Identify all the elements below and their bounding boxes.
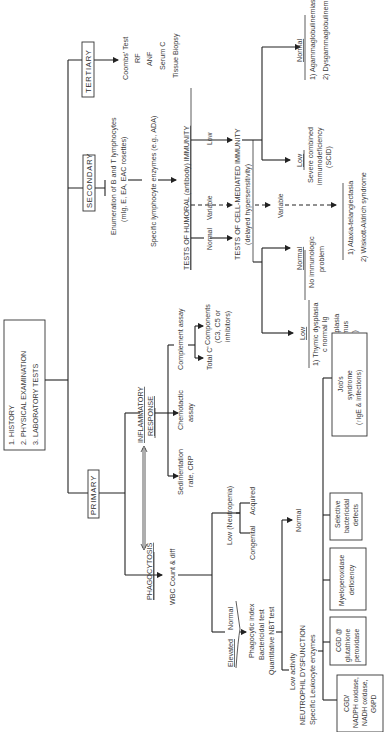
scid-line-2: immunodeficiency [315,127,324,185]
cgd-line-3: NADH oxidase, [361,679,368,726]
cmi-variable-label: Variable [277,193,284,218]
humoral-result-normal: Normal [206,228,213,250]
cgd-glut-line-2: glutathione [344,629,352,662]
selective-line-1: Selective [334,500,341,528]
enumeration-text: Enumeration of B and T lymphocytes [109,117,118,235]
tertiary-test-anf: ANF [145,51,154,66]
cgd-glut-line-1: CGD @ [335,628,342,652]
start-item-physical-exam: 2. PHYSICAL EXAMINATION [19,351,28,445]
no-problem-line-1: No immunologic [307,236,316,288]
neutrophil-dysfunction-label: NEUTROPHIL DYSFUNCTION [298,625,307,725]
tertiary-label: TERTIARY [84,49,93,93]
leukocyte-enzymes-label: Specific Leukocyte enzymes [308,634,317,725]
cgd-glut-line-3: peroxidase [353,629,361,662]
complement-assay-label: Complement assay [176,308,185,370]
cmi-normal-label: Normal [295,246,304,270]
thymic-line-2: c normal Ig [320,316,329,352]
enumeration-subtext: (mIg, E, EA, EAC rosettes) [119,137,128,222]
jobs-line-2: syndrome [346,370,354,400]
scid-line-3: (SCID) [324,146,333,168]
agamma-line-2: 2) Dysgammaglobulinemias [321,0,330,80]
elevated-normal-brace [236,601,240,668]
secondary-label: SECONDARY [85,153,94,208]
myelo-line-1: Myeloperoxidase [338,554,346,606]
tertiary-test-coombs: Coombs' Test [121,37,130,80]
cmi-tests-subtitle: (delayed hypersensitivity) [243,164,252,245]
immunodeficiency-workup-flowchart: 1. HISTORY 2. PHYSICAL EXAMINATION 3. LA… [0,0,385,732]
humoral-tests-title: TESTS OF HUMORAL (antibody) IMMUNITY [182,125,191,270]
sed-rate-line-2: rate, CRP [186,455,195,487]
components-line-2: (C3, C5 or [213,309,222,343]
inflammatory-title-2: RESPONSE [146,396,155,436]
elevated-wbc-label: Elevated [226,639,235,667]
selective-line-2: bactericidal [343,498,350,533]
wbc-count-label: WBC Count & diff [168,549,177,605]
start-item-history: 1. HISTORY [7,405,16,445]
primary-label: PRIMARY [89,475,98,515]
lymphocyte-enzymes-text: Specific lymphocyte enzymes (e.g., ADA) [149,116,158,247]
link-arrowhead-up [141,446,147,452]
tertiary-test-serum-c: Serum C [158,42,167,70]
acquired-label: Acquired [248,487,257,515]
ataxia-line-1: 1) Ataxia-telangiectasia [346,181,355,255]
components-line-3: inhibitors) [223,311,232,342]
scid-low-label: Low [295,153,304,167]
total-c-label: Total C' [205,346,214,370]
start-item-lab-tests: 3. LABORATORY TESTS [31,364,40,445]
humoral-result-variable: Variable [206,195,213,220]
selective-line-3: defects [352,503,359,526]
tertiary-test-rf: RF [133,53,142,63]
chemotactic-line-1: Chemotactic [176,390,185,430]
func-test-bactericidal: Bactericidal test [257,609,266,660]
normal-wbc-label: Normal [226,606,235,630]
low-activity-label: Low activity [288,652,297,690]
tertiary-test-biopsy: Tissue Biopsy [171,33,180,78]
func-test-nbt: Quantitative NBT test [267,607,276,675]
congenital-label: Congenital [248,525,257,560]
agamma-line-1: 1) Agammaglobulinemias [308,0,317,80]
ataxia-line-2: 2) Wiskott-Aldrich syndrome [359,172,368,262]
humoral-result-low: Low [206,132,213,145]
no-problem-line-2: problem [317,246,326,272]
sed-rate-line-1: Sedimentation [176,449,185,495]
cgd-line-4: G6PD [370,694,377,713]
phagocytosis-title: PHAGOCYTOSIS [145,542,154,600]
jobs-line-1: Job's [337,376,344,392]
cgd-line-2: NADPH oxidase, [352,677,359,728]
chemotactic-line-2: assay [186,403,195,422]
myelo-line-2: deficiency [348,564,356,595]
components-line-1: Components [203,304,212,345]
cmi-tests-title: TESTS OF CELL-MEDIATED IMMUNITY [233,128,242,260]
thymic-line-1: 1) Thymic dysplasia [311,303,320,366]
cgd-line-1: CGD/ [343,695,350,712]
scid-line-1: Severe combined [306,127,315,183]
agamma-normal-label: Normal [295,38,304,62]
neutropenia-label: Low (Neutropenia) [225,486,234,545]
jobs-line-3: (↑IgE & infections) [355,370,363,425]
nbt-normal-label: Normal [294,508,303,532]
func-test-phagocytic: Phagocytic index [247,603,256,658]
cmi-low-label: Low [298,326,307,340]
inflammatory-title-1: INFLAMMATORY [136,386,145,443]
